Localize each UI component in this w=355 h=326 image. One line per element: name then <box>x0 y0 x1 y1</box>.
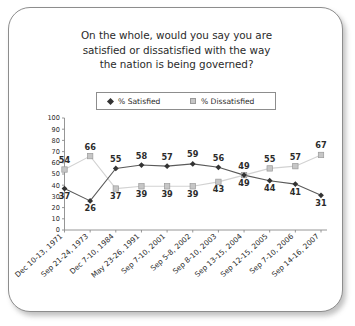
svg-text:80: 80 <box>52 137 60 145</box>
svg-text:43: 43 <box>213 184 225 194</box>
svg-text:55: 55 <box>264 154 276 164</box>
svg-text:49: 49 <box>238 161 250 171</box>
svg-text:58: 58 <box>136 151 148 161</box>
y-axis: 0102030405060708090100 <box>47 114 64 234</box>
svg-text:Sep 7-10, 2006: Sep 7-10, 2006 <box>248 232 296 276</box>
svg-text:41: 41 <box>290 187 302 197</box>
svg-text:67: 67 <box>315 140 327 150</box>
svg-text:57: 57 <box>161 152 173 162</box>
svg-text:31: 31 <box>315 198 327 208</box>
x-tick-labels: Dec 10-13, 1971Sep 21-24, 1973Dec 7-10, … <box>13 232 321 280</box>
svg-text:26: 26 <box>84 203 96 213</box>
svg-text:37: 37 <box>110 191 122 201</box>
svg-text:39: 39 <box>187 189 199 199</box>
svg-text:57: 57 <box>290 152 302 162</box>
svg-text:39: 39 <box>136 189 148 199</box>
svg-text:40: 40 <box>52 182 60 190</box>
svg-text:Sep 14-16, 2007: Sep 14-16, 2007 <box>270 232 321 279</box>
svg-text:50: 50 <box>52 170 60 178</box>
svg-text:Sep 8-10, 2003: Sep 8-10, 2003 <box>171 232 219 276</box>
svg-text:44: 44 <box>264 183 276 193</box>
svg-text:55: 55 <box>110 154 122 164</box>
svg-text:49: 49 <box>238 178 250 188</box>
svg-text:Dec 7-10, 1984: Dec 7-10, 1984 <box>68 232 116 277</box>
chart-svg: 0102030405060708090100 37265558575956494… <box>9 8 343 312</box>
svg-text:20: 20 <box>52 204 60 212</box>
svg-text:100: 100 <box>47 114 60 122</box>
svg-text:39: 39 <box>161 189 173 199</box>
data-value-labels: 3726555857595649444131546637393939434955… <box>59 140 327 213</box>
svg-text:56: 56 <box>213 153 225 163</box>
svg-text:90: 90 <box>52 126 60 134</box>
svg-text:10: 10 <box>52 215 60 223</box>
chart-card: On the whole, would you say you are sati… <box>8 7 343 312</box>
chart-plot-area: 0102030405060708090100 37265558575956494… <box>9 8 343 312</box>
svg-text:37: 37 <box>59 191 71 201</box>
svg-text:54: 54 <box>59 155 71 165</box>
svg-text:59: 59 <box>187 149 199 159</box>
svg-text:66: 66 <box>84 142 96 152</box>
